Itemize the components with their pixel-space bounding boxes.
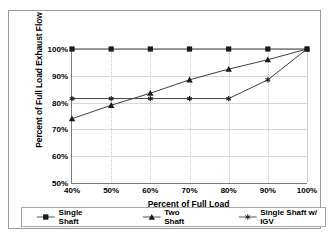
legend-marker-square-icon <box>36 212 56 222</box>
x-axis-tick-label: 90% <box>260 186 276 195</box>
y-axis-tick-label: 70% <box>52 125 68 134</box>
data-point-square <box>226 46 231 51</box>
data-point-square <box>148 46 153 51</box>
y-axis-tick-label: 80% <box>52 98 68 107</box>
data-point-square <box>187 46 192 51</box>
data-point-square <box>69 46 74 51</box>
series-two-shaft <box>69 46 310 121</box>
x-axis-tick-label: 70% <box>181 186 197 195</box>
chart-legend: Single Shaft Two Shaft Single Shaft w/ I… <box>21 207 326 227</box>
legend-label-single-shaft: Single Shaft <box>59 208 100 226</box>
y-axis-title: Percent of Full Load Exhaust Flow <box>34 10 48 150</box>
y-axis-tick-label: 90% <box>52 71 68 80</box>
x-gridline <box>307 49 308 183</box>
series-line <box>72 49 307 99</box>
legend-marker-triangle-icon <box>142 212 162 222</box>
series-single-shaft <box>69 46 309 51</box>
y-axis-tick-label: 60% <box>52 152 68 161</box>
x-axis-tick-label: 80% <box>221 186 237 195</box>
x-axis-tick-label: 50% <box>103 186 119 195</box>
series-layer <box>72 49 307 183</box>
series-single-shaft-w-igv <box>70 46 310 101</box>
legend-item-single-shaft[interactable]: Single Shaft <box>36 208 100 226</box>
legend-label-two-shaft: Two Shaft <box>164 208 197 226</box>
figure-frame: Percent of Full Load Exhaust Flow 50%60%… <box>8 10 321 229</box>
legend-item-two-shaft[interactable]: Two Shaft <box>142 208 198 226</box>
data-point-square <box>109 46 114 51</box>
x-axis-tick-label: 60% <box>142 186 158 195</box>
plot-area: 50%60%70%80%90%100%40%50%60%70%80%90%100… <box>71 49 307 184</box>
legend-label-single-shaft-igv: Single Shaft w/ IGV <box>260 208 325 226</box>
x-axis-tick-label: 40% <box>64 186 80 195</box>
legend-marker-star-icon <box>238 212 258 222</box>
y-axis-tick-label: 100% <box>48 45 68 54</box>
x-axis-tick-label: 100% <box>297 186 317 195</box>
legend-item-single-shaft-igv[interactable]: Single Shaft w/ IGV <box>238 208 325 226</box>
data-point-square <box>265 46 270 51</box>
series-line <box>72 49 307 119</box>
chart-plot-card: Percent of Full Load Exhaust Flow 50%60%… <box>21 23 326 198</box>
